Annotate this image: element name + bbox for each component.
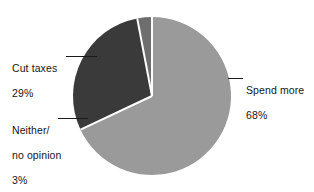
pie-label-cut-taxes: Cut taxes 29% xyxy=(12,49,57,112)
pie-label-neither-line2: no opinion xyxy=(12,149,61,162)
pie-label-spend-more: Spend more 68% xyxy=(246,71,304,134)
pie-label-spend-more-name: Spend more xyxy=(246,84,304,97)
pie-label-neither-line1: Neither/ xyxy=(12,124,61,137)
pie-label-cut-taxes-name: Cut taxes xyxy=(12,62,57,75)
pie-label-neither-value: 3% xyxy=(12,174,61,187)
pie-label-spend-more-value: 68% xyxy=(246,109,304,122)
pie-chart: Cut taxes 29% Neither/ no opinion 3% Spe… xyxy=(0,0,314,192)
pie-label-cut-taxes-value: 29% xyxy=(12,87,57,100)
pie-label-neither-no-opinion: Neither/ no opinion 3% xyxy=(12,111,61,192)
